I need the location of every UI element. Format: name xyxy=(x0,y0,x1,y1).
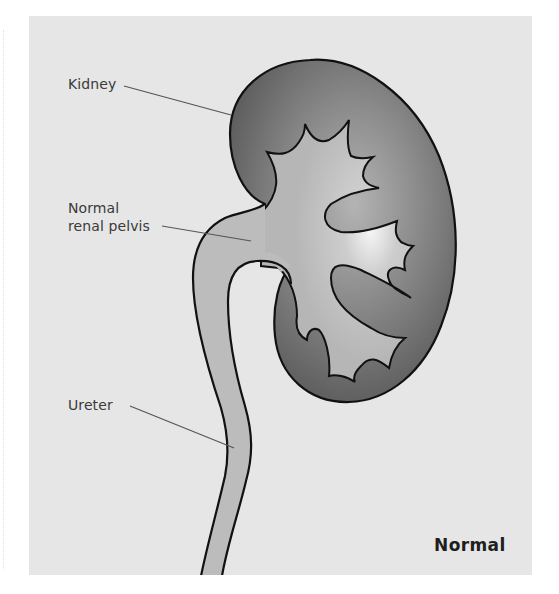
page-edge-rule xyxy=(3,30,4,570)
ureter-leader-line xyxy=(130,406,234,448)
kidney-leader-line xyxy=(124,86,231,115)
renal-pelvis-label-line1: Normal xyxy=(68,199,150,217)
diagram-panel: Kidney Normal renal pelvis Ureter Normal xyxy=(29,16,532,575)
renal-pelvis-label: Normal renal pelvis xyxy=(68,199,150,235)
kidney-illustration xyxy=(29,16,532,575)
figure-caption: Normal xyxy=(434,535,506,555)
pelvis-ureter xyxy=(193,204,291,575)
ureter-label: Ureter xyxy=(68,396,113,414)
kidney-label: Kidney xyxy=(68,75,116,93)
renal-pelvis-label-line2: renal pelvis xyxy=(68,217,150,235)
